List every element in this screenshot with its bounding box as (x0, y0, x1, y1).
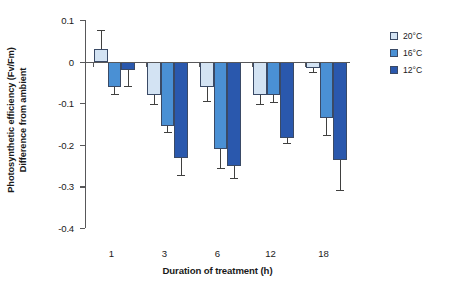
x-axis-tick (199, 62, 200, 67)
y-axis-tick (80, 186, 85, 187)
bar (214, 62, 228, 149)
x-axis-tick (93, 62, 94, 67)
legend: 20°C16°C12°C (390, 27, 450, 78)
bar (174, 62, 188, 159)
error-bar-cap (111, 94, 119, 95)
y-axis-tick-label: 0 (40, 56, 74, 67)
error-bar-cap (256, 104, 264, 105)
y-axis-tick-labels: 0.10-0.1-0.2-0.3-0.4 (40, 0, 74, 240)
x-axis-tick-label: 1 (109, 248, 114, 259)
error-bar (181, 158, 182, 175)
legend-swatch-icon (390, 49, 398, 57)
error-bar-cap (283, 143, 291, 144)
error-bar (154, 95, 155, 104)
bar (227, 62, 241, 167)
legend-label: 20°C (403, 31, 422, 41)
bar (267, 62, 281, 95)
bar (108, 62, 122, 87)
y-axis-line (85, 20, 86, 228)
error-bar-cap (124, 86, 132, 87)
zero-baseline (85, 62, 350, 63)
y-axis-title: Photosynthetic efficiency (Fv/Fm) Differ… (0, 0, 36, 240)
x-axis-tick-label: 18 (318, 248, 329, 259)
legend-label: 16°C (403, 48, 422, 58)
legend-swatch-icon (390, 66, 398, 74)
error-bar (114, 87, 115, 94)
error-bar-cap (97, 30, 105, 31)
error-bar-cap (336, 190, 344, 191)
y-axis-tick (80, 103, 85, 104)
error-bar-cap (230, 178, 238, 179)
error-bar-cap (164, 132, 172, 133)
x-axis-tick (146, 62, 147, 67)
legend-item: 12°C (390, 61, 450, 78)
bar (320, 62, 334, 118)
y-axis-title-line-1: Photosynthetic efficiency (Fv/Fm) (6, 47, 16, 192)
legend-swatch-icon (390, 32, 398, 40)
error-bar-cap (217, 168, 225, 169)
error-bar (234, 166, 235, 177)
error-bar (128, 70, 129, 86)
error-bar (207, 87, 208, 102)
bar (200, 62, 214, 87)
x-axis-title: Duration of treatment (h) (85, 265, 350, 276)
y-axis-tick (80, 20, 85, 21)
y-axis-tick-label: -0.4 (40, 223, 74, 234)
y-axis-tick (80, 228, 85, 229)
error-bar (340, 160, 341, 190)
bar (253, 62, 267, 95)
y-axis-tick-label: -0.2 (40, 139, 74, 150)
bar (333, 62, 347, 161)
y-axis-tick-label: -0.3 (40, 181, 74, 192)
bar (94, 49, 108, 61)
y-axis-title-line-2: Difference from ambient (18, 68, 28, 173)
y-axis-tick (80, 145, 85, 146)
bar (161, 62, 175, 126)
legend-label: 12°C (403, 65, 422, 75)
x-axis-tick (305, 62, 306, 67)
error-bar (220, 149, 221, 168)
bar (121, 62, 135, 71)
error-bar-cap (323, 135, 331, 136)
bar-chart-figure: Photosynthetic efficiency (Fv/Fm) Differ… (0, 0, 453, 288)
x-axis-tick-label: 3 (162, 248, 167, 259)
bar (147, 62, 161, 95)
error-bar-cap (177, 175, 185, 176)
error-bar (273, 95, 274, 102)
plot-area (85, 20, 350, 228)
error-bar-cap (150, 104, 158, 105)
x-axis-tick-label: 6 (215, 248, 220, 259)
legend-item: 16°C (390, 44, 450, 61)
error-bar (326, 118, 327, 135)
error-bar-cap (270, 102, 278, 103)
error-bar (260, 95, 261, 104)
bar (280, 62, 294, 138)
x-axis-tick-label: 12 (265, 248, 276, 259)
x-axis-tick (252, 62, 253, 67)
y-axis-tick-label: -0.1 (40, 98, 74, 109)
error-bar (101, 30, 102, 49)
y-axis-tick-label: 0.1 (40, 15, 74, 26)
error-bar-cap (203, 101, 211, 102)
error-bar-cap (309, 72, 317, 73)
legend-item: 20°C (390, 27, 450, 44)
